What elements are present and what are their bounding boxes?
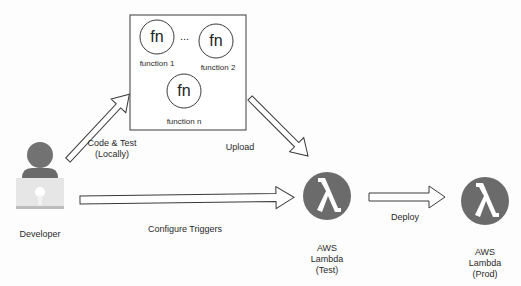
- code-test-label: Code & Test (Locally): [82, 138, 142, 160]
- lambda-prod-label: AWS Lambda (Prod): [460, 247, 510, 280]
- lambda-prod-line1: AWS: [460, 247, 510, 258]
- aws-lambda-prod-icon: [461, 177, 509, 225]
- developer-label: Developer: [10, 229, 70, 240]
- lambda-test-line3: (Test): [302, 265, 352, 276]
- configure-triggers-arrow: [80, 186, 294, 211]
- function-2-glyph: fn: [199, 24, 233, 58]
- diagram-canvas: fn fn fn ... function 1 function 2 funct…: [0, 0, 521, 286]
- lambda-prod-line2: Lambda: [460, 258, 510, 269]
- function-1-glyph: fn: [140, 20, 174, 54]
- function-2-label: function 2: [193, 62, 243, 73]
- upload-label: Upload: [220, 142, 260, 153]
- function-1-label: function 1: [132, 58, 182, 69]
- function-n-glyph: fn: [167, 74, 201, 108]
- lambda-test-line1: AWS: [302, 243, 352, 254]
- aws-lambda-test-icon: [303, 172, 351, 220]
- deploy-label: Deploy: [385, 212, 425, 223]
- developer-icon: [16, 142, 64, 209]
- configure-triggers-label: Configure Triggers: [140, 224, 230, 235]
- code-test-label-line2: (Locally): [82, 149, 142, 160]
- functions-ellipsis: ...: [180, 31, 189, 42]
- lambda-test-label: AWS Lambda (Test): [302, 243, 352, 276]
- lambda-test-line2: Lambda: [302, 254, 352, 265]
- lambda-prod-line3: (Prod): [460, 269, 510, 280]
- function-n-label: function n: [158, 116, 210, 127]
- diagram-graphics: [0, 0, 521, 286]
- code-test-label-line1: Code & Test: [82, 138, 142, 149]
- deploy-arrow: [369, 186, 445, 208]
